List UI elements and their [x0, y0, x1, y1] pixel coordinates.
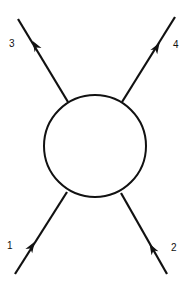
arrow-icon — [150, 244, 159, 256]
leg-line-4 — [122, 17, 175, 102]
leg-label-3: 3 — [9, 38, 15, 49]
scattering-diagram: 1 2 3 4 — [0, 0, 188, 292]
leg-line-2 — [121, 193, 167, 274]
leg-label-1: 1 — [7, 240, 13, 251]
leg-line-1 — [15, 192, 67, 274]
leg-line-3 — [18, 19, 68, 102]
interaction-blob — [44, 95, 146, 197]
leg-label-4: 4 — [173, 39, 179, 50]
leg-label-2: 2 — [171, 242, 177, 253]
